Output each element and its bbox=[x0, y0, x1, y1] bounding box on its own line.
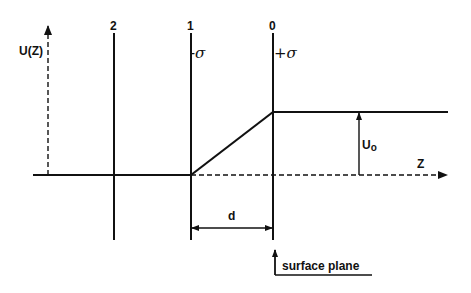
potential-ramp bbox=[191, 112, 273, 175]
u0-main: U bbox=[362, 138, 371, 152]
positive-charge-label: +σ bbox=[274, 47, 297, 59]
surface-plane-label: surface plane bbox=[282, 260, 359, 272]
separation-label: d bbox=[228, 210, 235, 222]
z-axis-label: Z bbox=[417, 158, 424, 170]
plane-1-label: 1 bbox=[187, 20, 194, 32]
plane-0-label: 0 bbox=[269, 20, 276, 32]
u0-label: Uo bbox=[362, 139, 377, 152]
diagram-canvas bbox=[0, 0, 471, 293]
negative-charge-label: -σ bbox=[190, 47, 205, 59]
plane-2-label: 2 bbox=[110, 20, 117, 32]
u0-subscript: o bbox=[371, 142, 377, 153]
y-axis-label: U(Z) bbox=[19, 45, 43, 57]
